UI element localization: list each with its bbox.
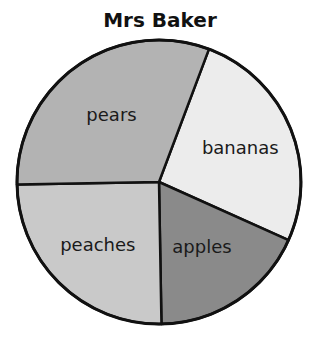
slice-label-bananas: bananas [202,137,279,158]
pie-chart: Mrs Baker bananasapplespeachespears [0,0,311,352]
slice-label-peaches: peaches [60,234,135,255]
chart-title: Mrs Baker [103,8,217,32]
slice-label-pears: pears [86,104,136,125]
slice-label-apples: apples [172,236,231,257]
